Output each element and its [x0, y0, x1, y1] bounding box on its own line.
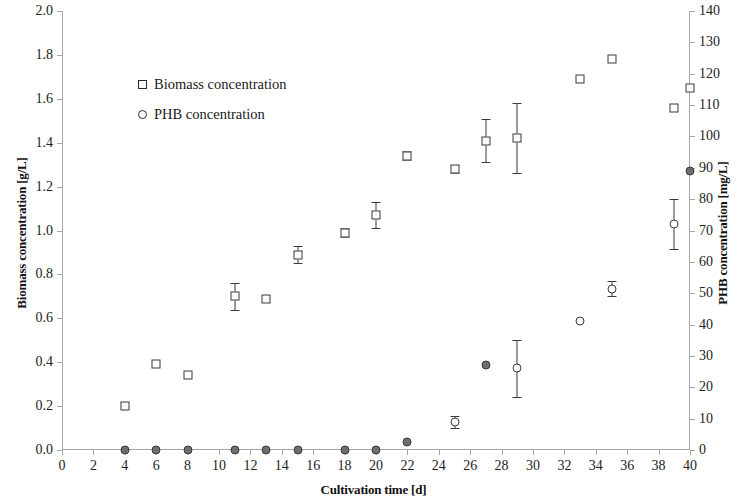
error-bar-cap-top [481, 119, 490, 120]
x-axis-tick [439, 450, 440, 455]
y-axis-right-tick [690, 262, 695, 263]
x-axis-tick [627, 450, 628, 455]
chart-legend: Biomass concentrationPHB concentration [138, 69, 286, 129]
data-point-phb [230, 446, 239, 455]
data-point-biomass [686, 83, 695, 92]
x-axis-tick-label: 6 [153, 458, 160, 474]
x-axis-tick-label: 26 [463, 458, 477, 474]
y-axis-right-tick-label: 90 [699, 160, 713, 176]
x-axis-tick-label: 28 [495, 458, 509, 474]
error-bar-cap-bottom [513, 397, 522, 398]
error-bar-cap-top [607, 281, 616, 282]
x-axis-tick [564, 450, 565, 455]
y-axis-right-tick [690, 11, 695, 12]
x-axis-tick [470, 450, 471, 455]
y-axis-right-title: PHB concentration [mg/L] [715, 108, 731, 358]
error-bar-cap-top [670, 199, 679, 200]
x-axis-title: Cultivation time [d] [0, 482, 747, 498]
x-axis-tick [407, 450, 408, 455]
x-axis-tick [502, 450, 503, 455]
error-bar-cap-top [372, 202, 381, 203]
data-point-phb [481, 361, 490, 370]
data-point-biomass [372, 211, 381, 220]
y-axis-right-tick-label: 40 [699, 317, 713, 333]
data-point-biomass [670, 103, 679, 112]
x-axis-tick [313, 450, 314, 455]
y-axis-right-tick-label: 120 [699, 66, 720, 82]
error-bar-cap-bottom [481, 162, 490, 163]
error-bar-cap-bottom [513, 173, 522, 174]
data-point-biomass [607, 55, 616, 64]
y-axis-left-title: Biomass concentration [g/L] [14, 108, 30, 358]
y-axis-left-tick-label: 0.6 [36, 310, 54, 326]
x-axis-tick-label: 32 [557, 458, 571, 474]
data-point-phb [450, 417, 459, 426]
error-bar-cap-bottom [670, 249, 679, 250]
y-axis-left-tick-label: 1.0 [36, 223, 54, 239]
y-axis-right-tick [690, 387, 695, 388]
data-point-phb [183, 446, 192, 455]
x-axis-tick [659, 450, 660, 455]
x-axis-tick [596, 450, 597, 455]
error-bar-cap-top [513, 340, 522, 341]
y-axis-right-tick-label: 140 [699, 3, 720, 19]
y-axis-right-tick-label: 80 [699, 191, 713, 207]
x-axis-tick-label: 14 [275, 458, 289, 474]
data-point-phb [152, 446, 161, 455]
data-point-biomass [230, 292, 239, 301]
data-point-phb [576, 317, 585, 326]
data-point-biomass [481, 136, 490, 145]
x-axis-tick [250, 450, 251, 455]
y-axis-right-tick-label: 130 [699, 34, 720, 50]
x-axis-tick [93, 450, 94, 455]
x-axis-tick-label: 34 [589, 458, 603, 474]
x-axis-tick-label: 30 [526, 458, 540, 474]
x-axis-tick-label: 36 [620, 458, 634, 474]
y-axis-left-tick [57, 362, 62, 363]
y-axis-right-tick [690, 356, 695, 357]
x-axis-tick-label: 22 [400, 458, 414, 474]
y-axis-left-tick [57, 99, 62, 100]
y-axis-right-tick-label: 100 [699, 128, 720, 144]
y-axis-right-tick [690, 231, 695, 232]
x-axis-tick-label: 16 [306, 458, 320, 474]
error-bar-cap-bottom [340, 237, 349, 238]
legend-item-label: PHB concentration [154, 106, 265, 123]
legend-item-label: Biomass concentration [154, 76, 286, 93]
y-axis-right-tick-label: 110 [699, 97, 719, 113]
error-bar-cap-top [230, 283, 239, 284]
y-axis-left-tick [57, 187, 62, 188]
data-point-biomass [262, 294, 271, 303]
data-point-phb [607, 284, 616, 293]
legend-item[interactable]: Biomass concentration [138, 69, 286, 99]
y-axis-left-tick [57, 406, 62, 407]
data-point-biomass [183, 371, 192, 380]
y-axis-left-tick-label: 2.0 [36, 3, 54, 19]
y-axis-right-tick [690, 105, 695, 106]
error-bar-cap-bottom [607, 296, 616, 297]
x-axis-tick-label: 4 [121, 458, 128, 474]
data-point-phb [670, 220, 679, 229]
data-point-biomass [403, 151, 412, 160]
legend-item[interactable]: PHB concentration [138, 99, 286, 129]
data-point-phb [262, 446, 271, 455]
error-bar-cap-bottom [403, 160, 412, 161]
y-axis-left-tick-label: 1.4 [36, 135, 54, 151]
y-axis-right-tick-label: 10 [699, 411, 713, 427]
y-axis-left-tick [57, 55, 62, 56]
data-point-phb [686, 166, 695, 175]
data-point-biomass [576, 75, 585, 84]
y-axis-right-tick-label: 60 [699, 254, 713, 270]
y-axis-right-tick [690, 293, 695, 294]
x-axis-tick [282, 450, 283, 455]
error-bar-cap-bottom [372, 228, 381, 229]
error-bar-cap-bottom [230, 310, 239, 311]
y-axis-left-tick [57, 318, 62, 319]
y-axis-left-tick-label: 1.8 [36, 47, 54, 63]
y-axis-left-tick [57, 231, 62, 232]
y-axis-right-tick-label: 30 [699, 348, 713, 364]
x-axis-tick-label: 10 [212, 458, 226, 474]
x-axis-tick-label: 18 [338, 458, 352, 474]
chart-container: Biomass concentration [g/L] PHB concentr… [0, 0, 747, 504]
x-axis-tick-label: 38 [652, 458, 666, 474]
